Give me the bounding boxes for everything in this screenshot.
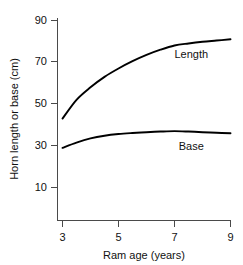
y-tick-label-10: 10 [35,181,47,193]
line-chart-canvas: 90 70 50 30 10 3 5 7 9 Ram age (years) H… [0,0,243,265]
x-tick-label-3: 3 [59,231,65,243]
series-curve-base [63,131,231,148]
y-tick-label-70: 70 [35,55,47,67]
series-label-length: Length [174,48,208,60]
chart-figure: 90 70 50 30 10 3 5 7 9 Ram age (years) H… [0,0,243,265]
x-tick-label-9: 9 [227,231,233,243]
x-axis-title: Ram age (years) [103,249,185,261]
x-tick-label-7: 7 [171,231,177,243]
y-axis-title: Horn length or base (cm) [8,58,20,180]
series-label-base: Base [179,140,204,152]
y-tick-label-50: 50 [35,97,47,109]
y-tick-label-90: 90 [35,14,47,26]
y-tick-label-30: 30 [35,139,47,151]
x-tick-label-5: 5 [115,231,121,243]
